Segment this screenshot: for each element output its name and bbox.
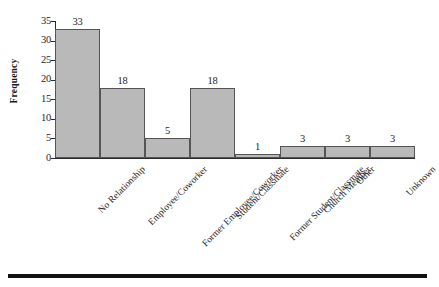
- x-axis-tick-label: Unknown: [404, 164, 438, 198]
- bottom-divider-rule: [8, 274, 427, 278]
- x-axis-tick-label: Employee/Coworker: [147, 164, 211, 228]
- x-axis-tick-label: No Relationship: [97, 164, 149, 216]
- x-axis-tick-label: Student/Classmate: [234, 164, 292, 222]
